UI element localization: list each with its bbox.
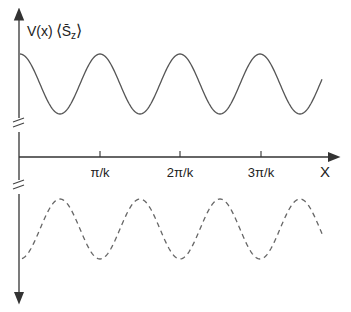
spin-curve-dashed [22, 199, 322, 259]
x-axis-ticks [100, 151, 261, 157]
x-tick-label-1: π/k [90, 165, 110, 180]
diagram-figure: π/k 2π/k 3π/k X V(x)⟨S̄z⟩ [0, 0, 351, 312]
y-axis-label: V(x)⟨S̄z⟩ [27, 22, 82, 41]
axis-break-upper [13, 118, 24, 127]
x-tick-label-3: 3π/k [248, 165, 275, 180]
axis-break-lower [13, 180, 24, 189]
potential-curve-solid [20, 54, 322, 114]
x-axis-label: X [320, 163, 330, 180]
x-tick-label-2: 2π/k [167, 165, 194, 180]
